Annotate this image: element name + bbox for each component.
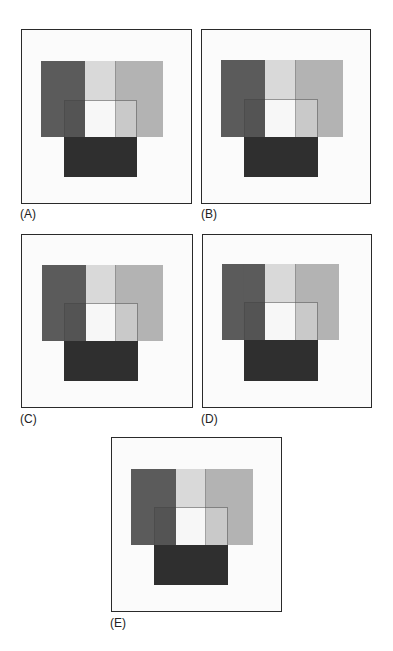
panel-label-c: (C) [20,413,37,425]
inner-rectangle-outline [64,100,137,138]
column-divider [115,265,116,341]
bottom-block [154,545,228,585]
extra-divider-line [243,264,244,340]
column-divider [295,264,296,340]
bottom-block [244,137,318,177]
column-divider [295,60,296,137]
column-divider [115,61,116,137]
panel-label-a: (A) [20,208,36,220]
inner-rectangle-outline [154,507,228,546]
inner-rectangle-outline [64,303,138,342]
panel-label-b: (B) [201,208,217,220]
bottom-block [64,341,138,381]
inner-rectangle-outline [244,99,318,138]
panel-label-d: (D) [201,413,218,425]
inner-rectangle-outline [244,302,318,341]
bottom-block [244,340,318,381]
column-divider [205,469,206,545]
bottom-block [64,137,137,177]
panel-label-e: (E) [110,617,126,629]
